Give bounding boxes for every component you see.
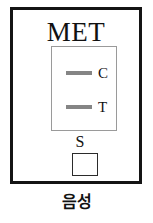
test-band-label: T: [98, 100, 107, 115]
rapid-test-figure: MET C T S 음성: [0, 0, 153, 223]
test-band-line: [66, 105, 92, 109]
result-window: C T: [51, 46, 117, 131]
control-band-line: [66, 71, 92, 75]
sample-well-label: S: [68, 134, 92, 150]
control-band-label: C: [98, 66, 108, 81]
test-band-row: T: [52, 99, 116, 115]
control-band-row: C: [52, 65, 116, 81]
sample-well: [72, 153, 98, 176]
device-title: MET: [13, 19, 139, 46]
result-caption: 음성: [0, 193, 153, 211]
test-cassette-body: MET C T S: [10, 7, 142, 184]
